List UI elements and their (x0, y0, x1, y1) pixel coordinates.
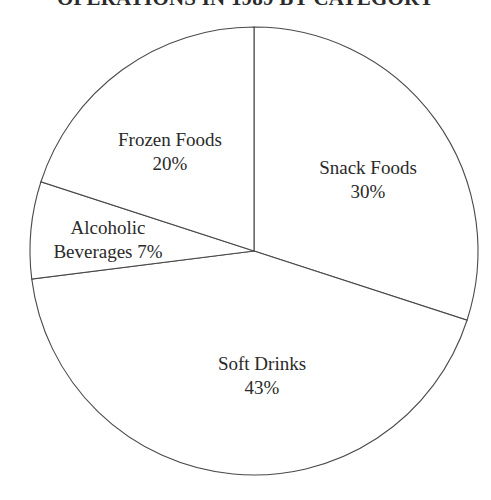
pie-label-snack-foods-name: Snack Foods (278, 156, 458, 180)
pie-label-frozen-foods-value: 20% (80, 152, 260, 176)
pie-label-alcoholic-beverages-line-1: Alcoholic (18, 216, 198, 240)
pie-label-alcoholic-beverages-value: 7% (137, 241, 162, 262)
pie-label-soft-drinks-value: 43% (172, 376, 352, 400)
pie-label-alcoholic-beverages: Alcoholic Beverages 7% (18, 216, 198, 265)
pie-label-frozen-foods: Frozen Foods 20% (80, 128, 260, 177)
pie-label-soft-drinks: Soft Drinks 43% (172, 352, 352, 401)
pie-label-frozen-foods-name: Frozen Foods (80, 128, 260, 152)
pie-label-snack-foods: Snack Foods 30% (278, 156, 458, 205)
pie-label-alcoholic-beverages-name: Beverages (53, 241, 132, 262)
pie-label-soft-drinks-name: Soft Drinks (172, 352, 352, 376)
pie-label-alcoholic-beverages-line-2: Beverages 7% (18, 240, 198, 264)
pie-label-snack-foods-value: 30% (278, 180, 458, 204)
pie-chart-figure: OPERATIONS IN 1989 BY CATEGORY Snack Foo… (0, 0, 491, 500)
